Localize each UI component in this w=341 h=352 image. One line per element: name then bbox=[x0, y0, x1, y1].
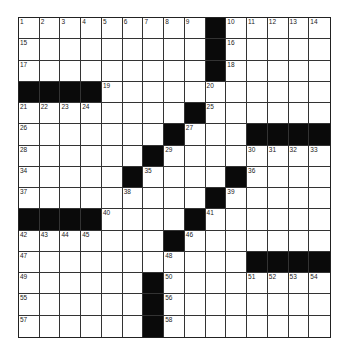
crossword-cell[interactable]: 26 bbox=[19, 124, 40, 145]
crossword-cell[interactable] bbox=[102, 146, 123, 167]
crossword-cell[interactable] bbox=[40, 188, 61, 209]
crossword-cell[interactable] bbox=[60, 146, 81, 167]
crossword-cell[interactable] bbox=[226, 273, 247, 294]
crossword-cell[interactable]: 39 bbox=[226, 188, 247, 209]
crossword-cell[interactable]: 45 bbox=[81, 231, 102, 252]
crossword-cell[interactable]: 29 bbox=[164, 146, 185, 167]
crossword-cell[interactable] bbox=[309, 231, 330, 252]
crossword-cell[interactable] bbox=[247, 188, 268, 209]
crossword-cell[interactable] bbox=[206, 294, 227, 315]
crossword-cell[interactable]: 22 bbox=[40, 103, 61, 124]
crossword-cell[interactable]: 34 bbox=[19, 167, 40, 188]
crossword-cell[interactable] bbox=[309, 103, 330, 124]
crossword-cell[interactable] bbox=[123, 316, 144, 337]
crossword-cell[interactable] bbox=[102, 273, 123, 294]
crossword-cell[interactable] bbox=[102, 103, 123, 124]
crossword-cell[interactable] bbox=[309, 209, 330, 230]
crossword-cell[interactable] bbox=[81, 316, 102, 337]
crossword-cell[interactable] bbox=[226, 124, 247, 145]
crossword-cell[interactable] bbox=[185, 316, 206, 337]
crossword-cell[interactable] bbox=[123, 146, 144, 167]
crossword-cell[interactable] bbox=[226, 103, 247, 124]
crossword-cell[interactable] bbox=[102, 316, 123, 337]
crossword-cell[interactable] bbox=[185, 167, 206, 188]
crossword-cell[interactable] bbox=[60, 294, 81, 315]
crossword-cell[interactable] bbox=[123, 124, 144, 145]
crossword-cell[interactable] bbox=[268, 231, 289, 252]
crossword-cell[interactable]: 21 bbox=[19, 103, 40, 124]
crossword-cell[interactable] bbox=[143, 124, 164, 145]
crossword-cell[interactable] bbox=[143, 39, 164, 60]
crossword-cell[interactable]: 44 bbox=[60, 231, 81, 252]
crossword-cell[interactable] bbox=[60, 167, 81, 188]
crossword-cell[interactable] bbox=[81, 252, 102, 273]
crossword-cell[interactable] bbox=[143, 61, 164, 82]
crossword-cell[interactable] bbox=[247, 61, 268, 82]
crossword-cell[interactable]: 17 bbox=[19, 61, 40, 82]
crossword-cell[interactable] bbox=[206, 124, 227, 145]
crossword-cell[interactable] bbox=[185, 39, 206, 60]
crossword-cell[interactable] bbox=[289, 82, 310, 103]
crossword-cell[interactable] bbox=[268, 167, 289, 188]
crossword-cell[interactable] bbox=[81, 273, 102, 294]
crossword-cell[interactable] bbox=[206, 167, 227, 188]
crossword-cell[interactable] bbox=[123, 82, 144, 103]
crossword-cell[interactable]: 31 bbox=[268, 146, 289, 167]
crossword-cell[interactable] bbox=[185, 61, 206, 82]
crossword-cell[interactable] bbox=[102, 61, 123, 82]
crossword-cell[interactable] bbox=[40, 273, 61, 294]
crossword-cell[interactable] bbox=[123, 231, 144, 252]
crossword-cell[interactable] bbox=[268, 103, 289, 124]
crossword-cell[interactable] bbox=[289, 188, 310, 209]
crossword-cell[interactable]: 48 bbox=[164, 252, 185, 273]
crossword-cell[interactable]: 13 bbox=[289, 18, 310, 39]
crossword-cell[interactable]: 6 bbox=[123, 18, 144, 39]
crossword-cell[interactable] bbox=[247, 82, 268, 103]
crossword-cell[interactable] bbox=[60, 124, 81, 145]
crossword-cell[interactable] bbox=[40, 124, 61, 145]
crossword-cell[interactable] bbox=[309, 294, 330, 315]
crossword-cell[interactable]: 47 bbox=[19, 252, 40, 273]
crossword-cell[interactable] bbox=[185, 146, 206, 167]
crossword-cell[interactable] bbox=[81, 39, 102, 60]
crossword-cell[interactable] bbox=[289, 61, 310, 82]
crossword-cell[interactable] bbox=[268, 188, 289, 209]
crossword-cell[interactable]: 15 bbox=[19, 39, 40, 60]
crossword-cell[interactable]: 49 bbox=[19, 273, 40, 294]
crossword-cell[interactable]: 28 bbox=[19, 146, 40, 167]
crossword-cell[interactable] bbox=[206, 146, 227, 167]
crossword-cell[interactable] bbox=[40, 316, 61, 337]
crossword-cell[interactable] bbox=[164, 167, 185, 188]
crossword-cell[interactable]: 57 bbox=[19, 316, 40, 337]
crossword-cell[interactable]: 42 bbox=[19, 231, 40, 252]
crossword-cell[interactable] bbox=[226, 316, 247, 337]
crossword-cell[interactable]: 36 bbox=[247, 167, 268, 188]
crossword-cell[interactable] bbox=[247, 209, 268, 230]
crossword-cell[interactable] bbox=[164, 188, 185, 209]
crossword-cell[interactable] bbox=[289, 103, 310, 124]
crossword-cell[interactable] bbox=[164, 39, 185, 60]
crossword-cell[interactable]: 54 bbox=[309, 273, 330, 294]
crossword-cell[interactable] bbox=[60, 188, 81, 209]
crossword-cell[interactable]: 52 bbox=[268, 273, 289, 294]
crossword-cell[interactable] bbox=[123, 61, 144, 82]
crossword-cell[interactable]: 46 bbox=[185, 231, 206, 252]
crossword-cell[interactable] bbox=[60, 252, 81, 273]
crossword-cell[interactable] bbox=[289, 209, 310, 230]
crossword-cell[interactable] bbox=[40, 294, 61, 315]
crossword-cell[interactable]: 19 bbox=[102, 82, 123, 103]
crossword-cell[interactable]: 58 bbox=[164, 316, 185, 337]
crossword-cell[interactable] bbox=[40, 39, 61, 60]
crossword-cell[interactable]: 51 bbox=[247, 273, 268, 294]
crossword-cell[interactable] bbox=[102, 188, 123, 209]
crossword-cell[interactable] bbox=[60, 316, 81, 337]
crossword-cell[interactable] bbox=[81, 294, 102, 315]
crossword-cell[interactable] bbox=[81, 188, 102, 209]
crossword-cell[interactable]: 56 bbox=[164, 294, 185, 315]
crossword-cell[interactable]: 40 bbox=[102, 209, 123, 230]
crossword-cell[interactable] bbox=[143, 231, 164, 252]
crossword-cell[interactable] bbox=[185, 188, 206, 209]
crossword-cell[interactable] bbox=[164, 209, 185, 230]
crossword-cell[interactable]: 30 bbox=[247, 146, 268, 167]
crossword-cell[interactable] bbox=[60, 39, 81, 60]
